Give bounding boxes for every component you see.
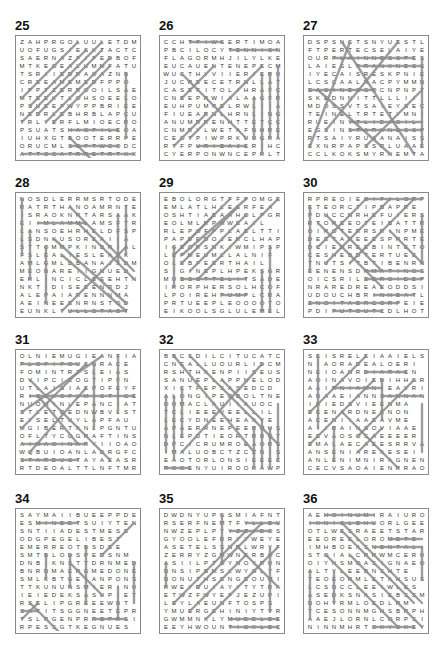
grid-letter: L [106, 86, 114, 94]
grid-letter: A [170, 456, 178, 464]
grid-letter: N [90, 243, 98, 251]
grid-letter [122, 535, 130, 543]
grid-letter: N [402, 408, 410, 416]
grid-letter: R [234, 102, 242, 110]
grid-letter: N [402, 259, 410, 267]
grid-letter: E [50, 424, 58, 432]
grid-letter: N [242, 376, 250, 384]
grid-letter: P [90, 384, 98, 392]
grid-letter: S [258, 267, 266, 275]
grid-letter: S [178, 567, 186, 575]
grid-letter: E [242, 150, 250, 158]
grid-letter: C [338, 291, 346, 299]
grid-letter: E [402, 299, 410, 307]
grid-letter: T [338, 299, 346, 307]
grid-letter: R [362, 110, 370, 118]
grid-letter: L [218, 251, 226, 259]
grid-letter: I [314, 424, 322, 432]
grid-letter: L [346, 110, 354, 118]
grid-letter: R [194, 118, 202, 126]
grid-letter: T [90, 376, 98, 384]
grid-letter: D [90, 78, 98, 86]
grid-letter: D [18, 559, 26, 567]
grid-letter: E [42, 464, 50, 472]
grid-letter [130, 78, 138, 86]
grid-letter: T [66, 623, 74, 631]
grid-letter: T [266, 299, 274, 307]
grid-letter: R [418, 527, 426, 535]
grid-letter [418, 203, 426, 211]
grid-letter: E [386, 448, 394, 456]
grid-letter: A [386, 203, 394, 211]
grid-letter [130, 360, 138, 368]
grid-letter: U [170, 70, 178, 78]
grid-letter: T [34, 551, 42, 559]
grid-letter: U [90, 519, 98, 527]
grid-letter: U [410, 575, 418, 583]
grid-letter: K [42, 575, 50, 583]
grid-letter: C [394, 551, 402, 559]
grid-letter: E [322, 235, 330, 243]
grid-letter: E [370, 575, 378, 583]
grid-letter: C [194, 400, 202, 408]
grid-letter: S [362, 86, 370, 94]
grid-letter: O [242, 392, 250, 400]
grid-letter: E [122, 527, 130, 535]
grid-letter: T [66, 424, 74, 432]
grid-letter: H [114, 275, 122, 283]
grid-letter: I [130, 615, 138, 623]
grid-letter: I [370, 456, 378, 464]
grid-letter: D [402, 275, 410, 283]
grid-letter: B [98, 102, 106, 110]
letter-grid-frame: AEHOINUMIRAIUROIKNISLEHUORLGEEOTLWESRAEE… [303, 508, 429, 634]
grid-letter: Z [202, 551, 210, 559]
grid-letter: R [266, 126, 274, 134]
grid-letter: T [106, 195, 114, 203]
grid-letter: A [402, 400, 410, 408]
grid-letter: O [50, 211, 58, 219]
grid-letter: E [18, 543, 26, 551]
grid-letter: Y [234, 583, 242, 591]
grid-letter: A [90, 575, 98, 583]
grid-letter: N [98, 283, 106, 291]
grid-letter: L [242, 543, 250, 551]
grid-letter: T [202, 432, 210, 440]
grid-letter: Y [218, 615, 226, 623]
grid-letter: S [410, 62, 418, 70]
grid-letter: S [106, 535, 114, 543]
grid-letter: I [98, 376, 106, 384]
puzzle-number: 26 [159, 19, 285, 33]
grid-letter: N [330, 408, 338, 416]
grid-letter: N [402, 392, 410, 400]
grid-letter: D [266, 275, 274, 283]
grid-letter: M [258, 307, 266, 315]
grid-letter: A [122, 86, 130, 94]
grid-letter: L [194, 559, 202, 567]
grid-letter: O [18, 142, 26, 150]
grid-letter: N [90, 259, 98, 267]
grid-letter: T [226, 78, 234, 86]
grid-letter: T [354, 110, 362, 118]
grid-letter: U [386, 38, 394, 46]
grid-letter: O [346, 615, 354, 623]
grid-letter: O [98, 94, 106, 102]
grid-letter: E [346, 219, 354, 227]
grid-letter: P [114, 511, 122, 519]
grid-letter: R [322, 227, 330, 235]
grid-letter: L [202, 360, 210, 368]
grid-letter: E [234, 424, 242, 432]
grid-letter: U [386, 211, 394, 219]
grid-letter: U [314, 118, 322, 126]
grid-letter: I [250, 527, 258, 535]
grid-letter: L [178, 203, 186, 211]
grid-letter: E [218, 416, 226, 424]
grid-letter: O [194, 275, 202, 283]
grid-letter: E [90, 599, 98, 607]
grid-letter: L [74, 62, 82, 70]
grid-letter: N [386, 400, 394, 408]
grid-letter: R [362, 227, 370, 235]
grid-letter: A [194, 110, 202, 118]
grid-letter: I [242, 368, 250, 376]
grid-letter: E [418, 70, 426, 78]
grid-letter: B [346, 251, 354, 259]
